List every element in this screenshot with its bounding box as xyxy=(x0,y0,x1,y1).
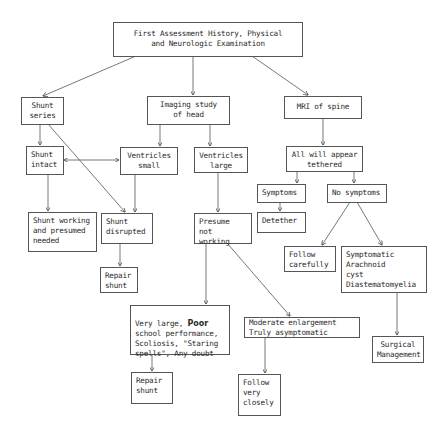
node-shunt-working: Shunt working and presumed needed xyxy=(28,212,97,252)
node-symptomatic-cyst: Symptomatic Arachnoid cyst Diastematomye… xyxy=(341,246,427,293)
node-detether: Detether xyxy=(257,212,306,233)
node-first-assessment: First Assessment History, Physical and N… xyxy=(113,22,303,57)
node-follow-very-closely: Follow very closely xyxy=(238,374,281,416)
node-presume-not-working: Presume not working xyxy=(194,213,252,244)
node-surgical-management: Surgical Management xyxy=(372,336,424,363)
node-mri-spine: MRI of spine xyxy=(284,96,362,119)
very-large-text-bold: Poor xyxy=(187,319,208,328)
node-repair-shunt-2: Repair shunt xyxy=(131,372,173,404)
node-all-tethered: All will appear tethered xyxy=(286,146,363,172)
very-large-text-b: school performance, Scoliosis, "Staring … xyxy=(135,329,218,358)
node-ventricles-large: Ventricles large xyxy=(194,147,248,173)
node-no-symptoms: No symptoms xyxy=(327,184,387,203)
node-shunt-intact: Shunt intact xyxy=(26,146,64,175)
very-large-text-a: Very large, xyxy=(135,319,187,328)
node-imaging-study: Imaging study of head xyxy=(147,96,230,125)
node-shunt-disrupted: Shunt disrupted xyxy=(101,213,153,244)
node-moderate-enlargement: Moderate enlargement Truly asymptomatic xyxy=(244,317,360,338)
node-very-large: Very large, Poor school performance, Sco… xyxy=(130,305,230,355)
node-repair-shunt-1: Repair shunt xyxy=(100,267,138,293)
node-follow-carefully: Follow carefully xyxy=(284,246,336,272)
node-ventricles-small: Ventricles small xyxy=(120,147,178,175)
node-shunt-series: Shunt series xyxy=(21,97,64,125)
node-symptoms: Symptoms xyxy=(257,184,306,203)
